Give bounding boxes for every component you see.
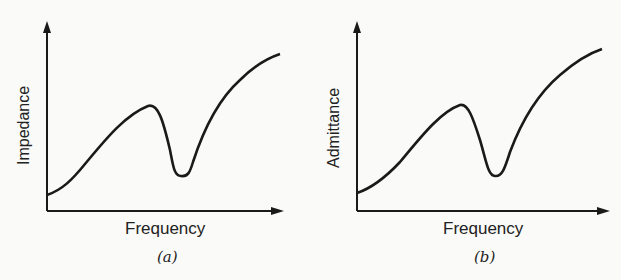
- panel-a-y-axis-label: Impedance: [15, 86, 33, 165]
- panel-a-x-axis-label: Frequency: [125, 219, 205, 239]
- panel-a-plot: [43, 21, 284, 215]
- panel-a-caption: (a): [157, 248, 178, 266]
- panel-a-x-arrow-icon: [271, 207, 284, 215]
- panel-b-y-axis-label: Admittance: [325, 88, 343, 168]
- panel-a-y-arrow-icon: [43, 21, 51, 33]
- panel-a-impedance-curve: [47, 54, 280, 195]
- panel-b-y-arrow-icon: [353, 21, 361, 33]
- panel-b-x-axis-label: Frequency: [443, 219, 523, 239]
- panel-b-admittance-curve: [357, 49, 602, 193]
- figure-canvas: [0, 0, 621, 280]
- panel-b-plot: [353, 21, 610, 215]
- panel-b-caption: (b): [474, 248, 495, 266]
- panel-b-x-arrow-icon: [597, 207, 610, 215]
